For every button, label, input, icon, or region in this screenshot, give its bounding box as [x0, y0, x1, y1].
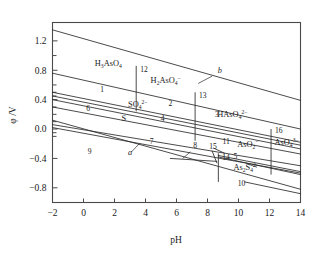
curve-number-label-6: 6 — [86, 104, 90, 113]
y-tick-label: −0.8 — [29, 183, 46, 193]
curve-number-label-1: 1 — [100, 85, 104, 94]
curve-number-label-10: 10 — [238, 179, 246, 188]
curve-number-label-8: 8 — [193, 141, 197, 150]
species-label-AsO43-: AsO43− — [274, 137, 298, 148]
x-tick-label: 6 — [174, 208, 179, 218]
curve-number-label-16: 16 — [275, 126, 283, 135]
y-axis-title: φ /V — [8, 106, 18, 123]
species-labels-group: H3AsO4H2AsO4−HAsO42−SO42−AsO2−AsO43−As2S… — [95, 59, 299, 173]
x-tick-label: 4 — [143, 208, 148, 218]
curve-number-label-12: 12 — [140, 65, 148, 74]
y-tick-label: 0.8 — [35, 66, 47, 76]
x-tick-label: 8 — [205, 208, 210, 218]
curve-number-label-15: 15 — [209, 142, 217, 151]
species-label-AsO2-: AsO2− — [237, 138, 258, 149]
x-axis-title: pH — [170, 235, 182, 245]
curve-number-label-2: 2 — [168, 99, 172, 108]
boundary-line-10 — [245, 182, 301, 194]
y-tick-label: 1.2 — [35, 36, 47, 46]
boundary-line-b — [53, 30, 301, 101]
eh-ph-chart: 12345678910111213141516 H3AsO4H2AsO4−HAs… — [0, 0, 318, 256]
curve-number-label-14: 14 — [222, 153, 230, 162]
curve-number-label-5: 5 — [234, 152, 238, 161]
curve-number-label-9: 9 — [88, 147, 92, 156]
species-label-H2AsO4-: H2AsO4− — [151, 75, 181, 86]
curve-number-label-11: 11 — [222, 137, 230, 146]
y-tick-label: 0.4 — [35, 95, 47, 105]
species-label-HAsO42-: HAsO42− — [217, 109, 247, 120]
x-tick-label: 14 — [296, 208, 306, 218]
y-tick-label: 0.0 — [35, 124, 47, 134]
species-label-S: S — [121, 114, 126, 123]
tick-labels-group: −2024681012141.20.80.40.0−0.4−0.8 — [29, 36, 305, 217]
species-label-SO42-: SO42− — [128, 99, 147, 110]
x-tick-label: 2 — [112, 208, 117, 218]
pourbaix-diagram-figure: 12345678910111213141516 H3AsO4H2AsO4−HAs… — [0, 0, 318, 256]
species-label-a: a — [128, 148, 132, 157]
numeric-labels-group: 12345678910111213141516 — [86, 65, 283, 189]
curve-number-label-7: 7 — [150, 137, 154, 146]
curve-number-label-13: 13 — [199, 91, 207, 100]
y-tick-label: −0.4 — [29, 154, 46, 164]
curve-number-label-4: 4 — [161, 114, 165, 123]
species-label-H3AsO4: H3AsO4 — [95, 59, 122, 69]
x-tick-label: −2 — [47, 208, 57, 218]
x-tick-label: 0 — [81, 208, 86, 218]
species-label-As2S42-: As2S42− — [233, 162, 259, 173]
boundary-line-5 — [218, 157, 300, 175]
leader-line-b — [198, 76, 212, 83]
boundary-line-8 — [170, 158, 217, 161]
x-tick-label: 12 — [265, 208, 275, 218]
x-tick-label: 10 — [234, 208, 244, 218]
leader-line-a — [132, 144, 140, 152]
species-label-b: b — [218, 66, 222, 75]
